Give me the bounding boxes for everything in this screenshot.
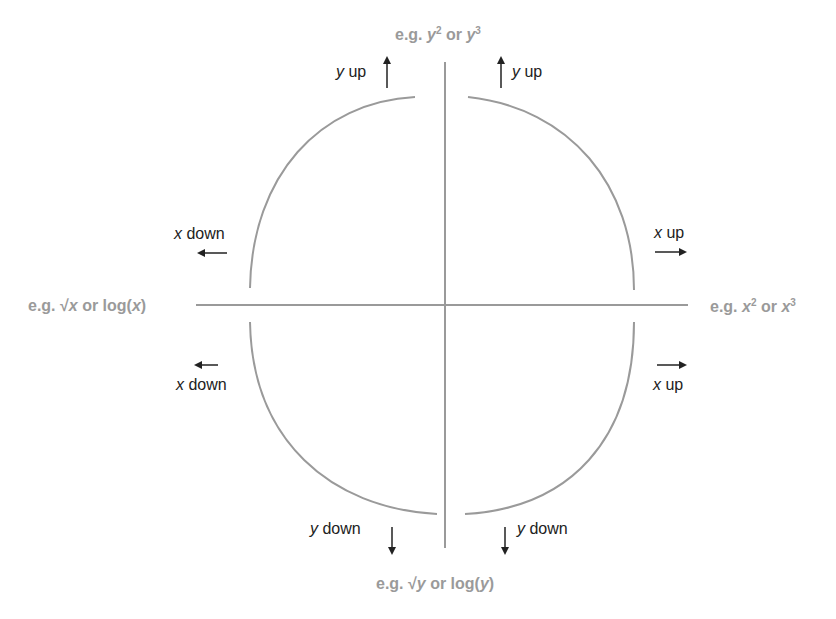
label-text: or [441,26,466,43]
label-var: y [512,63,520,80]
axis-label-top: e.g. y2 or y3 [395,26,481,43]
label-text: or [756,298,781,315]
axis-label-bottom: e.g. √y or log(y) [376,576,494,592]
label-text: down [184,376,227,393]
label-text: down [318,520,361,537]
label-text: up [520,63,542,80]
label-text: e.g. √ [28,297,69,314]
label-text: e.g. [395,26,427,43]
label-var: y [480,575,489,592]
label-text: or log( [78,297,132,314]
label-text: up [662,224,684,241]
arc-top-left [250,97,415,288]
axis-label-right: e.g. x2 or x3 [710,298,796,315]
label-text: up [661,376,683,393]
axis-label-left: e.g. √x or log(x) [28,298,146,314]
label-bottom-left-y-down: y down [310,521,361,537]
arc-bottom-right [465,322,634,514]
label-var: y [427,26,436,43]
label-bottom-right-x-up: x up [653,377,683,393]
label-exp: 3 [475,25,481,36]
arc-top-right [468,97,634,290]
label-text: ) [489,575,494,592]
label-bottom-right-y-down: y down [517,521,568,537]
label-var: y [310,520,318,537]
arc-bottom-left [250,322,437,514]
label-top-left-x-down: x down [174,226,225,242]
label-text: or log( [426,575,480,592]
label-var: x [132,297,141,314]
label-top-right-x-up: x up [654,225,684,241]
label-var: y [466,26,475,43]
label-var: y [517,520,525,537]
label-text: up [344,63,366,80]
label-text: e.g. [710,298,742,315]
label-bottom-left-x-down: x down [176,377,227,393]
label-var: x [174,225,182,242]
label-text: down [182,225,225,242]
label-top-right-y-up: y up [512,64,542,80]
label-top-left-y-up: y up [336,64,366,80]
label-var: x [654,224,662,241]
label-var: x [781,298,790,315]
label-exp: 3 [790,297,796,308]
label-text: e.g. √ [376,575,417,592]
label-var: x [176,376,184,393]
label-var: x [69,297,78,314]
label-text: ) [141,297,146,314]
label-var: x [742,298,751,315]
label-var: y [417,575,426,592]
label-text: down [525,520,568,537]
label-var: x [653,376,661,393]
label-var: y [336,63,344,80]
